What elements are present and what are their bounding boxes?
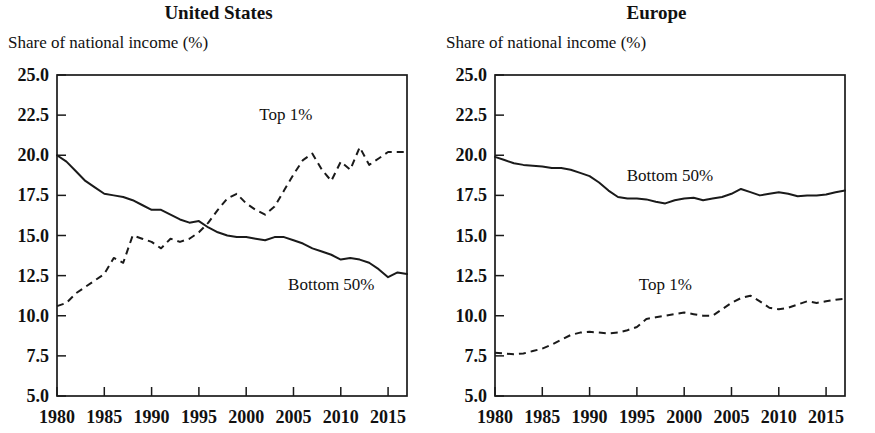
x-tick-label: 2005 xyxy=(713,407,749,427)
y-tick-label: 10.0 xyxy=(18,306,50,326)
x-tick-label: 1990 xyxy=(134,407,170,427)
y-tick-label: 15.0 xyxy=(18,226,50,246)
y-tick-label: 20.0 xyxy=(456,145,488,165)
x-tick-label: 1980 xyxy=(39,407,75,427)
x-tick-label: 2015 xyxy=(808,407,844,427)
series-line-bottom-50pct xyxy=(57,155,407,277)
x-tick-label: 1990 xyxy=(572,407,608,427)
y-tick-label: 22.5 xyxy=(456,105,488,125)
y-tick-label: 25.0 xyxy=(18,65,50,85)
x-tick-label: 1980 xyxy=(477,407,513,427)
y-tick-label: 10.0 xyxy=(456,306,488,326)
y-tick-label: 17.5 xyxy=(456,185,488,205)
x-tick-label: 1985 xyxy=(524,407,560,427)
y-tick-label: 5.0 xyxy=(27,386,50,406)
plot-frame xyxy=(495,75,845,396)
x-tick-label: 2010 xyxy=(323,407,359,427)
series-line-top-1pct xyxy=(495,296,845,355)
plot-area-united-states: 5.07.510.012.515.017.520.022.525.0198019… xyxy=(0,0,437,433)
figure-root: United States Share of national income (… xyxy=(0,0,875,433)
y-tick-label: 25.0 xyxy=(456,65,488,85)
y-tick-label: 12.5 xyxy=(18,266,50,286)
x-tick-label: 2000 xyxy=(666,407,702,427)
series-label-bottom-50pct: Bottom 50% xyxy=(627,166,713,185)
y-tick-label: 12.5 xyxy=(456,266,488,286)
y-tick-label: 7.5 xyxy=(27,346,50,366)
plot-area-europe: 5.07.510.012.515.017.520.022.525.0198019… xyxy=(438,0,875,433)
y-tick-label: 17.5 xyxy=(18,185,50,205)
panel-europe: Europe Share of national income (%) 5.07… xyxy=(438,0,875,433)
series-label-top-1pct: Top 1% xyxy=(639,275,692,294)
series-label-top-1pct: Top 1% xyxy=(259,105,312,124)
y-tick-label: 22.5 xyxy=(18,105,50,125)
x-tick-label: 2000 xyxy=(228,407,264,427)
x-tick-label: 1985 xyxy=(86,407,122,427)
x-tick-label: 2010 xyxy=(761,407,797,427)
series-label-bottom-50pct: Bottom 50% xyxy=(288,275,374,294)
panel-united-states: United States Share of national income (… xyxy=(0,0,437,433)
x-tick-label: 1995 xyxy=(619,407,655,427)
x-tick-label: 1995 xyxy=(181,407,217,427)
y-tick-label: 15.0 xyxy=(456,226,488,246)
x-tick-label: 2015 xyxy=(370,407,406,427)
y-tick-label: 5.0 xyxy=(465,386,488,406)
y-tick-label: 20.0 xyxy=(18,145,50,165)
y-tick-label: 7.5 xyxy=(465,346,488,366)
x-tick-label: 2005 xyxy=(275,407,311,427)
